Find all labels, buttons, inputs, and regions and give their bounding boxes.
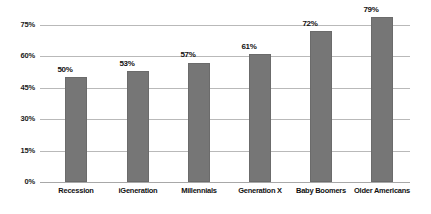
- bar-generation-x: [249, 54, 271, 182]
- bar-value-label-igeneration: 53%: [100, 60, 154, 68]
- bar-igeneration: [127, 71, 149, 182]
- y-axis-tick-label: 0%: [0, 178, 35, 186]
- bar-millennials: [188, 63, 210, 182]
- y-axis-tick-label: 45%: [0, 84, 35, 92]
- gridline-15: [40, 151, 410, 152]
- y-axis-tick-label: 15%: [0, 147, 35, 155]
- gridline-45: [40, 88, 410, 89]
- y-axis-tick-label: 75%: [0, 21, 35, 29]
- gridline-60: [40, 56, 410, 57]
- gridline-0-baseline: [40, 182, 410, 183]
- x-axis-label-older-americans: Older Americans: [337, 187, 427, 195]
- y-axis-tick-label: 30%: [0, 115, 35, 123]
- gridline-75: [40, 25, 410, 26]
- bar-recession: [65, 77, 87, 182]
- bar-older-americans: [371, 17, 393, 182]
- bar-value-label-generation-x: 61%: [222, 43, 276, 51]
- bar-chart: 75% 60% 45% 30% 15% 0% 50% 53% 57% 61% 7…: [0, 0, 431, 214]
- gridline-30: [40, 119, 410, 120]
- bar-value-label-millennials: 57%: [161, 51, 215, 59]
- y-axis-tick-label: 60%: [0, 53, 35, 61]
- bar-value-label-recession: 50%: [38, 66, 92, 74]
- bar-value-label-baby-boomers: 72%: [283, 20, 337, 28]
- bar-baby-boomers: [310, 31, 332, 182]
- bar-value-label-older-americans: 79%: [344, 6, 398, 14]
